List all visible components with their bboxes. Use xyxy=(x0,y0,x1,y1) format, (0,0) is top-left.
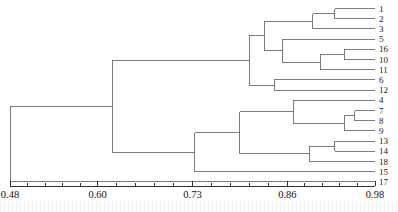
leaf-label-1: 1 xyxy=(379,4,384,13)
scan-artifact-band xyxy=(0,202,398,212)
leaf-label-12: 12 xyxy=(379,86,388,95)
leaf-label-5: 5 xyxy=(379,35,384,44)
leaf-label-10: 10 xyxy=(379,55,388,64)
dendrogram-links xyxy=(10,9,375,182)
leaf-label-14: 14 xyxy=(379,147,388,156)
x-tick-label-0-73: 0.73 xyxy=(183,189,201,200)
leaf-label-4: 4 xyxy=(379,96,384,105)
leaf-label-11: 11 xyxy=(379,65,388,74)
leaf-label-2: 2 xyxy=(379,14,384,23)
x-tick-label-0-60: 0.60 xyxy=(88,189,106,200)
leaf-label-8: 8 xyxy=(379,116,384,125)
dendrogram-figure: 123516101161247891314181517 0.480.600.73… xyxy=(0,0,398,212)
leaf-label-7: 7 xyxy=(379,106,384,115)
leaf-label-16: 16 xyxy=(379,45,388,54)
x-tick-label-0-48: 0.48 xyxy=(1,189,19,200)
dendrogram-canvas xyxy=(0,0,398,212)
leaf-label-9: 9 xyxy=(379,126,384,135)
x-tick-label-0-86: 0.86 xyxy=(278,189,296,200)
leaf-label-18: 18 xyxy=(379,157,388,166)
x-tick-label-0-98: 0.98 xyxy=(366,189,384,200)
leaf-label-15: 15 xyxy=(379,167,388,176)
leaf-label-3: 3 xyxy=(379,24,384,33)
leaf-label-13: 13 xyxy=(379,137,388,146)
leaf-label-6: 6 xyxy=(379,75,384,84)
leaf-label-17: 17 xyxy=(379,177,388,186)
